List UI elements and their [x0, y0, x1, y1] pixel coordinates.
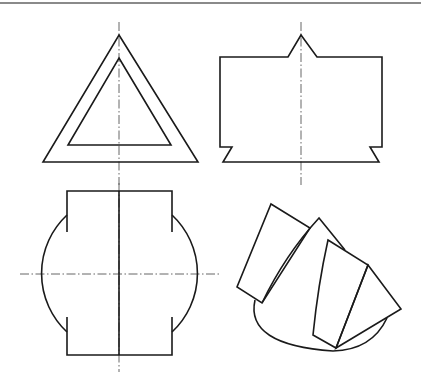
outer-triangle [43, 35, 198, 162]
triangle-view [43, 22, 198, 185]
technical-drawing [0, 0, 421, 389]
left-circle-arc [42, 215, 67, 332]
cylinder-view [20, 183, 220, 372]
drawing-canvas [0, 0, 421, 389]
panel-3 [313, 240, 368, 348]
right-circle-arc [172, 215, 197, 332]
fan-view [237, 204, 401, 351]
panel-1 [237, 204, 310, 303]
block-view [220, 22, 382, 185]
inner-triangle [68, 58, 171, 145]
